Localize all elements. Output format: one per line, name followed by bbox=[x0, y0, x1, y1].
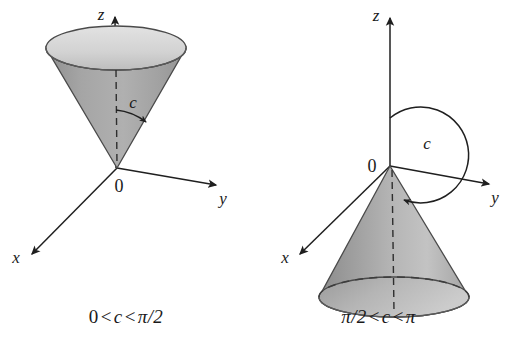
caption-right: π/2<c<π bbox=[252, 306, 505, 328]
caption-right-rel-1: < bbox=[367, 306, 382, 327]
figure-canvas: c 0 z y x c bbox=[0, 0, 505, 350]
caption-left-rel-1: < bbox=[99, 306, 114, 327]
caption-left: 0<c<π/2 bbox=[0, 306, 252, 328]
axis-label-y-right: y bbox=[489, 188, 499, 207]
caption-right-variable: c bbox=[382, 306, 391, 327]
caption-left-lower: 0 bbox=[89, 306, 99, 327]
angle-label-right: c bbox=[423, 134, 431, 153]
axis-label-x-left: x bbox=[11, 248, 20, 267]
caption-left-variable: c bbox=[114, 306, 123, 327]
panel-left: c 0 z y x bbox=[11, 5, 227, 267]
axis-label-x-right: x bbox=[280, 248, 289, 267]
axis-y-right bbox=[390, 166, 489, 184]
caption-right-upper: π bbox=[406, 306, 416, 327]
axis-label-z-right: z bbox=[372, 6, 380, 25]
caption-left-rel-2: < bbox=[123, 306, 138, 327]
caption-left-upper: π/2 bbox=[138, 306, 164, 327]
caption-right-lower: π/2 bbox=[341, 306, 367, 327]
axis-x-left bbox=[32, 168, 117, 254]
figure-root: c 0 z y x c bbox=[0, 0, 505, 350]
caption-right-rel-2: < bbox=[391, 306, 406, 327]
origin-label-left: 0 bbox=[115, 176, 124, 196]
axis-label-z-left: z bbox=[97, 5, 105, 24]
origin-label-right: 0 bbox=[368, 156, 377, 176]
axis-label-y-left: y bbox=[217, 189, 227, 208]
axis-y-left bbox=[117, 168, 216, 185]
panel-right: c 0 z y x bbox=[280, 6, 499, 317]
angle-label-left: c bbox=[129, 93, 137, 112]
